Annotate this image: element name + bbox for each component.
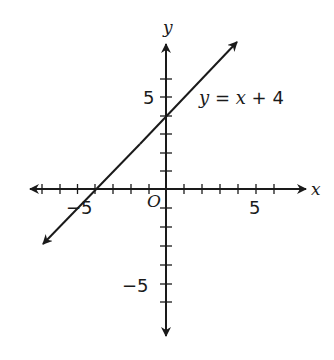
x-axis	[30, 184, 306, 194]
equation-tail: + 4	[246, 87, 284, 108]
equation-label: y = x + 4	[198, 87, 284, 108]
equation-x: x	[236, 87, 246, 108]
coordinate-plane: y x O 5 −5 −5 5 y = x + 4	[0, 0, 334, 360]
y-tick-label-neg5: −5	[122, 275, 149, 296]
equation-equals: =	[209, 87, 236, 108]
x-tick-label-neg5: −5	[66, 197, 93, 218]
y-tick-label-5: 5	[143, 87, 154, 108]
x-tick-label-5: 5	[249, 197, 260, 218]
y-axis-label: y	[162, 17, 173, 37]
origin-label: O	[147, 191, 161, 211]
x-axis-label: x	[311, 179, 321, 199]
